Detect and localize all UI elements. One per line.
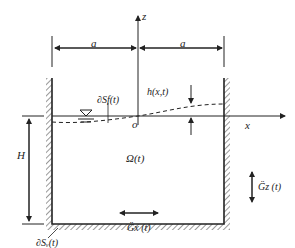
wave-height-label: h(x,t) — [147, 87, 168, 97]
half-width-right-label: a — [180, 38, 186, 49]
x-axis-label: x — [245, 120, 250, 131]
tank-sloshing-diagram: z x o a a h(x,t) ∂Sf(t) Ω(t) H ∂Sᵥ(t) G̈… — [0, 0, 295, 248]
z-axis-label: z — [142, 11, 146, 22]
depth-label: H — [17, 150, 25, 161]
horizontal-accel-label: G̈x (t) — [127, 223, 151, 233]
vertical-accel-label: G̈z (t) — [258, 182, 281, 192]
half-width-left-label: a — [91, 38, 97, 49]
fluid-domain-label: Ω(t) — [126, 153, 144, 164]
wetted-boundary-label: ∂Sᵥ(t) — [36, 238, 58, 248]
origin-label: o — [132, 119, 138, 130]
diagram-svg — [0, 0, 295, 248]
depth-dimension — [22, 116, 44, 224]
free-surface-label: ∂Sf(t) — [97, 95, 119, 105]
